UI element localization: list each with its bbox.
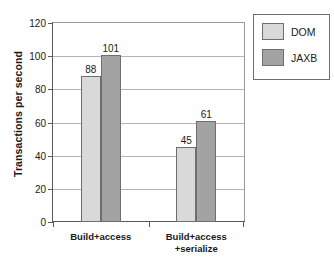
x-axis-category-label: Build+access	[70, 231, 131, 243]
x-axis-category-label: Build+access+serialize	[166, 231, 227, 255]
bar-value-label: 88	[85, 64, 96, 75]
y-axis-tick	[48, 123, 53, 124]
x-axis-label-line: +serialize	[166, 243, 227, 255]
bar-value-label: 45	[181, 135, 192, 146]
legend-label-jaxb: JAXB	[291, 52, 317, 64]
chart-legend: DOM JAXB	[253, 14, 330, 80]
legend-swatch-dom	[262, 23, 284, 40]
y-axis-tick-label: 80	[35, 84, 46, 95]
y-axis-tick-label: 40	[35, 150, 46, 161]
legend-label-dom: DOM	[291, 26, 316, 38]
legend-item-dom: DOM	[262, 23, 329, 40]
bar-jaxb-0: 101	[101, 55, 121, 222]
y-axis-title: Transactions per second	[12, 34, 24, 194]
bar-value-label: 101	[102, 43, 119, 54]
legend-item-jaxb: JAXB	[262, 49, 329, 66]
y-axis-tick	[48, 23, 53, 24]
x-axis-label-line: Build+access	[70, 231, 131, 243]
bar-dom-0: 88	[81, 76, 101, 222]
y-axis-tick-label: 0	[40, 217, 46, 228]
x-axis-tick	[243, 222, 244, 227]
bar-jaxb-1: 61	[196, 121, 216, 222]
y-axis-tick-label: 20	[35, 183, 46, 194]
legend-swatch-jaxb	[262, 49, 284, 66]
x-axis-tick	[53, 222, 54, 227]
y-axis-tick	[48, 89, 53, 90]
y-axis-tick	[48, 156, 53, 157]
y-axis-tick	[48, 56, 53, 57]
bar-chart: Transactions per second 0204060801001208…	[0, 0, 334, 262]
bar-value-label: 61	[201, 109, 212, 120]
x-axis-label-line: Build+access	[166, 231, 227, 243]
plot-area: 02040608010012088101Build+access4561Buil…	[52, 22, 245, 222]
y-axis-tick	[48, 189, 53, 190]
bar-dom-1: 45	[176, 147, 196, 222]
x-axis-tick	[149, 222, 150, 227]
y-axis-tick-label: 120	[29, 18, 46, 29]
y-axis-tick-label: 60	[35, 117, 46, 128]
y-axis-tick-label: 100	[29, 51, 46, 62]
gridline	[53, 56, 244, 57]
